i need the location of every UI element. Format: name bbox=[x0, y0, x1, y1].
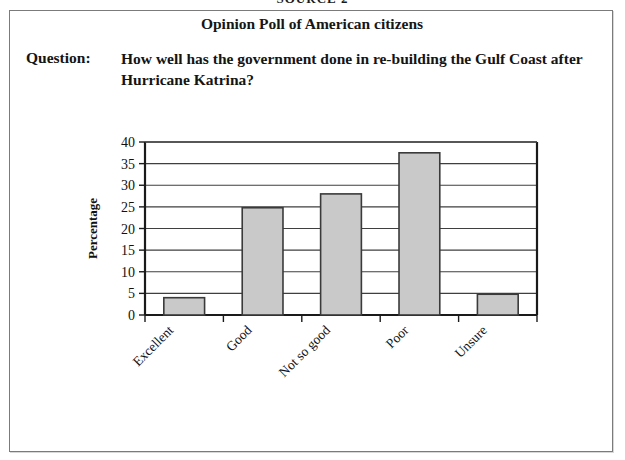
bar bbox=[399, 153, 440, 315]
source-heading: SOURCE 2 bbox=[0, 0, 625, 7]
x-tick-label: Poor bbox=[383, 322, 412, 351]
y-tick-label: 25 bbox=[121, 200, 135, 215]
bar-chart: 0510152025303540ExcellentGoodNot so good… bbox=[10, 11, 614, 453]
y-tick-label: 30 bbox=[121, 178, 135, 193]
poll-card: Opinion Poll of American citizens Questi… bbox=[9, 10, 613, 452]
y-tick-label: 5 bbox=[128, 286, 135, 301]
x-tick-label: Excellent bbox=[130, 322, 177, 369]
bar bbox=[164, 298, 205, 315]
x-tick-label: Unsure bbox=[452, 323, 490, 361]
y-tick-label: 35 bbox=[121, 157, 135, 172]
y-tick-label: 20 bbox=[121, 222, 135, 237]
bar bbox=[321, 194, 362, 315]
bar bbox=[477, 294, 518, 315]
y-axis-title: Percentage bbox=[85, 198, 100, 259]
y-tick-label: 0 bbox=[128, 308, 135, 323]
x-tick-label: Not so good bbox=[276, 322, 333, 379]
y-tick-label: 10 bbox=[121, 265, 135, 280]
bar-chart-svg: 0510152025303540ExcellentGoodNot so good… bbox=[10, 11, 614, 453]
y-tick-label: 40 bbox=[121, 135, 135, 150]
y-tick-label: 15 bbox=[121, 243, 135, 258]
x-tick-label: Good bbox=[223, 322, 255, 354]
bar bbox=[242, 208, 283, 315]
